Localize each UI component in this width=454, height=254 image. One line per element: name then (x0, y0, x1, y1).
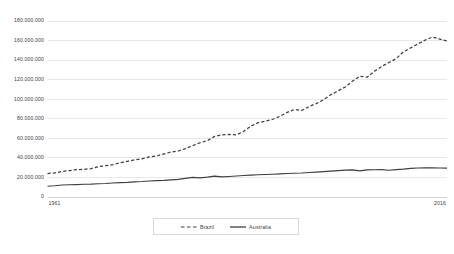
series-line-brazil (48, 37, 448, 173)
y-tick-label: 40.000.000 (2, 154, 44, 160)
legend-swatch-solid (230, 224, 246, 230)
gridlines-group (48, 22, 448, 198)
y-tick-label: 120.000.000 (2, 76, 44, 82)
chart-legend[interactable]: BrazilAustralia (153, 218, 299, 235)
y-tick-label: 100.000.000 (2, 96, 44, 102)
population-line-chart: 020.000.00040.000.00060.000.00080.000.00… (0, 0, 454, 254)
legend-label: Australia (249, 224, 271, 230)
y-tick-label: 140.000.000 (2, 56, 44, 62)
x-tick-label: 2016 (434, 200, 446, 206)
y-tick-label: 160.000.000 (2, 37, 44, 43)
y-tick-label: 80.000.000 (2, 115, 44, 121)
legend-swatch-dashed (181, 224, 197, 230)
legend-item-brazil[interactable]: Brazil (181, 224, 214, 230)
y-tick-label: 20.000.000 (2, 174, 44, 180)
y-tick-label: 0 (2, 193, 44, 199)
legend-label: Brazil (200, 224, 214, 230)
legend-item-australia[interactable]: Australia (230, 224, 271, 230)
series-group (48, 37, 448, 186)
x-tick-label: 1961 (49, 200, 61, 206)
y-tick-label: 60.000.000 (2, 135, 44, 141)
y-tick-label: 180.000.000 (2, 17, 44, 23)
chart-canvas (0, 0, 454, 254)
